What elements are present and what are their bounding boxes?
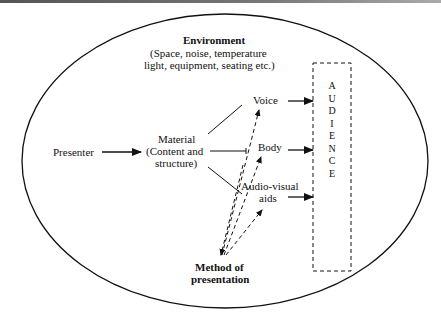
- av-label-2: aids: [259, 192, 277, 204]
- method-label-2: presentation: [191, 273, 249, 285]
- voice-label: Voice: [253, 94, 278, 106]
- audience-label: A U D I E N C E: [325, 80, 339, 180]
- material-label-1: Material: [158, 133, 195, 145]
- audience-letter: E: [325, 130, 339, 143]
- audience-letter: D: [325, 105, 339, 118]
- audience-letter: E: [325, 168, 339, 181]
- av-label-1: Audio-visual: [241, 180, 298, 192]
- method-label-1: Method of: [195, 261, 244, 273]
- audience-letter: I: [325, 118, 339, 131]
- audience-letter: N: [325, 143, 339, 156]
- material-label-3: structure): [155, 157, 197, 169]
- material-label-2: (Content and: [146, 145, 203, 157]
- environment-title: Environment: [183, 34, 245, 46]
- environment-line2: light, equipment, seating etc.): [144, 59, 275, 71]
- presenter-label: Presenter: [53, 146, 94, 158]
- audience-letter: U: [325, 93, 339, 106]
- audience-letter: A: [325, 80, 339, 93]
- audience-letter: C: [325, 155, 339, 168]
- environment-line1: (Space, noise, temperature: [150, 47, 267, 59]
- body-label: Body: [258, 141, 282, 153]
